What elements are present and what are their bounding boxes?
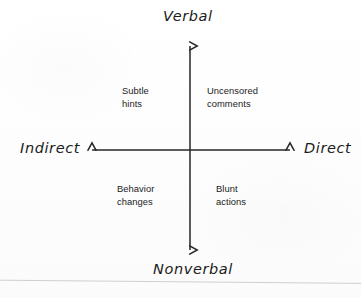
quadrant-label-bottom-right: Blunt actions (216, 183, 246, 208)
axis-label-verbal: Verbal (163, 9, 213, 24)
quadrant-label-top-right: Uncensored comments (207, 85, 258, 110)
axis-label-direct: Direct (304, 141, 351, 156)
axis-label-nonverbal: Nonverbal (153, 262, 233, 277)
quadrant-label-bottom-left: Behavior changes (117, 183, 154, 208)
axis-label-indirect: Indirect (20, 141, 80, 156)
quadrant-diagram-canvas: Verbal Nonverbal Indirect Direct Subtle … (0, 0, 361, 298)
quadrant-label-top-left: Subtle hints (122, 85, 149, 110)
